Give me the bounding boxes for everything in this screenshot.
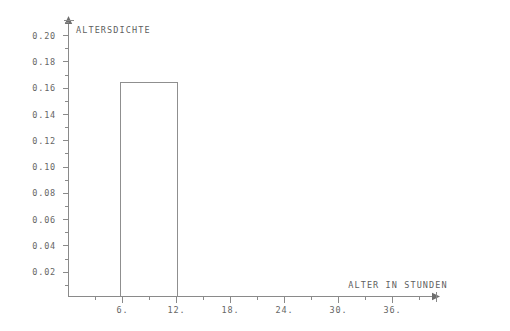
y-axis-group: 0.20 0.18 0.16 0.14 0.12 0.10 0.08 0.06 … [32, 16, 150, 297]
x-tick-label-30: 30. [330, 305, 348, 315]
x-tick-label-6: 6. [117, 305, 129, 315]
y-tick-label-0.20: 0.20 [32, 31, 56, 41]
y-tick-label-0.14: 0.14 [32, 110, 56, 120]
density-bar-6-to-12 [121, 83, 178, 297]
y-tick-label-0.06: 0.06 [32, 215, 56, 225]
y-tick-label-0.10: 0.10 [32, 162, 56, 172]
x-tick-label-24: 24. [276, 305, 294, 315]
x-axis-title: ALTER IN STUNDEN [348, 280, 447, 290]
y-tick-label-0.02: 0.02 [32, 267, 56, 277]
y-tick-label-0.04: 0.04 [32, 241, 56, 251]
y-tick-label-0.12: 0.12 [32, 136, 56, 146]
chart-page: 0.20 0.18 0.16 0.14 0.12 0.10 0.08 0.06 … [0, 0, 510, 331]
x-axis-group: 6. 12. 18. 24. 30. 36. ALTER IN STUNDEN [69, 280, 448, 315]
density-series [121, 83, 178, 297]
y-tick-label-0.16: 0.16 [32, 83, 56, 93]
y-axis-title: ALTERSDICHTE [76, 25, 151, 35]
x-tick-label-12: 12. [168, 305, 186, 315]
x-tick-marks-minor [96, 297, 420, 301]
age-density-histogram: 0.20 0.18 0.16 0.14 0.12 0.10 0.08 0.06 … [0, 0, 510, 331]
y-tick-label-0.18: 0.18 [32, 57, 56, 67]
y-tick-label-0.08: 0.08 [32, 188, 56, 198]
x-tick-label-18: 18. [222, 305, 240, 315]
x-tick-label-36: 36. [384, 305, 402, 315]
